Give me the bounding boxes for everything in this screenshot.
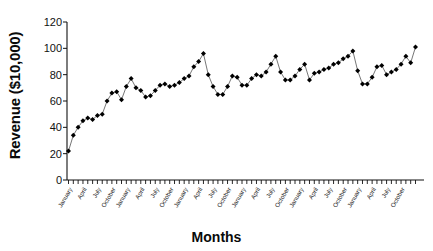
chart-figure: Revenue ($10,000) 020406080100120 Januar… — [0, 0, 433, 251]
data-point-marker — [114, 89, 119, 94]
x-axis-tick-labels: JanuaryAprilJulyOctoberJanuaryAprilJulyO… — [56, 185, 406, 208]
x-axis-tick-label: July — [206, 185, 218, 199]
line-chart-plot: 020406080100120 JanuaryAprilJulyOctoberJ… — [0, 0, 433, 251]
y-axis-tick-label: 100 — [44, 42, 62, 54]
data-point-marker — [283, 77, 288, 82]
data-point-marker — [413, 45, 418, 50]
x-axis-tick-label: April — [249, 186, 261, 200]
x-axis-tick-marks — [69, 180, 416, 184]
data-point-marker — [225, 84, 230, 89]
data-point-marker — [109, 91, 114, 96]
data-point-marker — [374, 64, 379, 69]
data-point-marker — [129, 76, 134, 81]
data-point-marker — [355, 68, 360, 73]
data-point-marker — [379, 63, 384, 68]
data-point-marker — [268, 62, 273, 67]
y-axis-tick-label: 80 — [50, 69, 62, 81]
y-axis-tick-marks — [63, 22, 67, 180]
data-point-marker — [172, 83, 177, 88]
x-axis-tick-label: April — [365, 186, 377, 200]
y-axis-tick-label: 120 — [44, 16, 62, 28]
x-axis-tick-label: January — [230, 185, 248, 208]
x-axis-tick-label: April — [76, 186, 88, 200]
x-axis-tick-label: October — [389, 186, 406, 209]
x-axis-title-text: Months — [192, 229, 242, 245]
data-point-marker — [215, 92, 220, 97]
y-axis-tick-label: 20 — [50, 148, 62, 160]
data-point-marker — [235, 75, 240, 80]
data-point-marker — [105, 99, 110, 104]
data-point-marker — [360, 81, 365, 86]
data-point-marker — [186, 73, 191, 78]
data-point-marker — [240, 83, 245, 88]
data-point-marker — [384, 72, 389, 77]
data-point-marker — [273, 54, 278, 59]
x-axis-tick-label: July — [322, 185, 334, 199]
y-axis-tick-label: 40 — [50, 121, 62, 133]
y-axis-tick-labels: 020406080100120 — [44, 16, 62, 186]
x-axis-tick-label: April — [307, 186, 319, 200]
data-point-marker — [278, 70, 283, 75]
x-axis-tick-label: April — [191, 186, 203, 200]
x-axis-tick-label: July — [264, 185, 276, 199]
x-axis-tick-label: January — [345, 185, 363, 208]
data-point-marker — [220, 92, 225, 97]
data-point-marker — [201, 51, 206, 56]
data-point-marker — [162, 81, 167, 86]
x-axis-title: Months — [0, 229, 433, 245]
data-point-marker — [119, 97, 124, 102]
x-axis-tick-label: January — [114, 185, 132, 208]
x-axis-tick-label: January — [288, 185, 306, 208]
x-axis-tick-label: July — [380, 185, 392, 199]
data-point-marker — [389, 70, 394, 75]
y-axis-tick-label: 60 — [50, 95, 62, 107]
x-axis-tick-label: April — [133, 186, 145, 200]
data-point-marker — [85, 116, 90, 121]
data-point-marker — [100, 112, 105, 117]
data-point-marker — [211, 84, 216, 89]
data-point-marker — [321, 67, 326, 72]
data-point-marker — [71, 133, 76, 138]
y-axis-tick-label: 0 — [56, 174, 62, 186]
data-point-marker — [124, 84, 129, 89]
data-point-marker — [133, 85, 138, 90]
x-axis-tick-label: January — [56, 185, 74, 208]
data-point-marker — [317, 70, 322, 75]
x-axis-tick-label: July — [91, 185, 103, 199]
data-point-marker — [230, 73, 235, 78]
data-point-marker — [167, 84, 172, 89]
data-point-marker — [206, 72, 211, 77]
data-series-markers — [66, 45, 418, 154]
x-axis-tick-label: July — [149, 185, 161, 199]
x-axis-tick-label: January — [172, 185, 190, 208]
